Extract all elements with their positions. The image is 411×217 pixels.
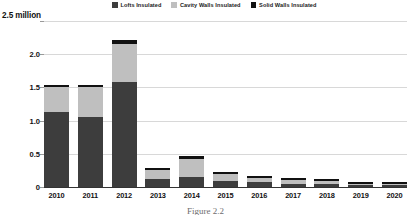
legend-item: Solid Walls Insulated (251, 2, 317, 8)
x-axis-tick-label: 2015 (213, 191, 238, 200)
bar-segment[interactable] (348, 185, 373, 187)
x-axis-tick-label: 2012 (112, 191, 137, 200)
bar-segment[interactable] (78, 87, 103, 117)
plot-area: 00.51.01.52.02.5 million (44, 21, 407, 187)
bar-segment[interactable] (213, 181, 238, 187)
bar-segment[interactable] (382, 185, 407, 187)
bar-segment[interactable] (213, 174, 238, 181)
bar-segment[interactable] (112, 82, 137, 187)
y-axis-tick-label: 0 (36, 183, 40, 192)
bar-segment[interactable] (145, 179, 170, 187)
x-axis-tick-label: 2011 (78, 191, 103, 200)
legend-label: Cavity Walls Insulated (180, 2, 241, 8)
bar-column[interactable] (382, 21, 407, 187)
chart-figure: Lofts InsulatedCavity Walls InsulatedSol… (0, 0, 411, 217)
y-axis-tick-label: 1.5 (29, 83, 40, 92)
bar-column[interactable] (314, 21, 339, 187)
bar-segment[interactable] (179, 159, 204, 177)
y-axis-tick-label: 1.0 (29, 116, 40, 125)
bar-segment[interactable] (112, 44, 137, 83)
bar-segment[interactable] (44, 112, 69, 187)
x-axis-tick-label: 2020 (382, 191, 407, 200)
bar-segment[interactable] (314, 184, 339, 187)
bar-column[interactable] (179, 21, 204, 187)
bar-column[interactable] (281, 21, 306, 187)
bar-segment[interactable] (44, 87, 69, 112)
bar-segment[interactable] (78, 117, 103, 187)
figure-caption: Figure 2.2 (0, 206, 411, 215)
bar-column[interactable] (348, 21, 373, 187)
legend-swatch-icon (112, 2, 118, 8)
legend-swatch-icon (251, 2, 257, 8)
x-axis-tick-label: 2019 (348, 191, 373, 200)
legend-label: Lofts Insulated (121, 2, 162, 8)
x-axis-tick-label: 2016 (247, 191, 272, 200)
legend-item: Lofts Insulated (112, 2, 161, 8)
x-axis-labels: 2010201120122013201420152016201720182019… (44, 191, 407, 200)
legend-swatch-icon (171, 2, 177, 8)
x-axis-tick-label: 2014 (179, 191, 204, 200)
y-axis-title: 2.5 million (2, 11, 41, 20)
bar-segment[interactable] (281, 184, 306, 187)
bar-segment[interactable] (247, 182, 272, 187)
bar-column[interactable] (213, 21, 238, 187)
bar-column[interactable] (44, 21, 69, 187)
x-axis-tick-label: 2018 (314, 191, 339, 200)
bar-column[interactable] (145, 21, 170, 187)
x-axis-tick-label: 2017 (281, 191, 306, 200)
bar-group (44, 21, 407, 187)
bar-segment[interactable] (145, 170, 170, 179)
bar-segment[interactable] (179, 177, 204, 187)
x-axis-tick-label: 2013 (145, 191, 170, 200)
bar-column[interactable] (112, 21, 137, 187)
y-axis-tick-label: 0.5 (29, 149, 40, 158)
legend-label: Solid Walls Insulated (259, 2, 316, 8)
bar-column[interactable] (247, 21, 272, 187)
legend-item: Cavity Walls Insulated (171, 2, 240, 8)
x-axis-tick-label: 2010 (44, 191, 69, 200)
y-axis-tick-label: 2.0 (29, 50, 40, 59)
chart-legend: Lofts InsulatedCavity Walls InsulatedSol… (112, 2, 317, 8)
bar-column[interactable] (78, 21, 103, 187)
